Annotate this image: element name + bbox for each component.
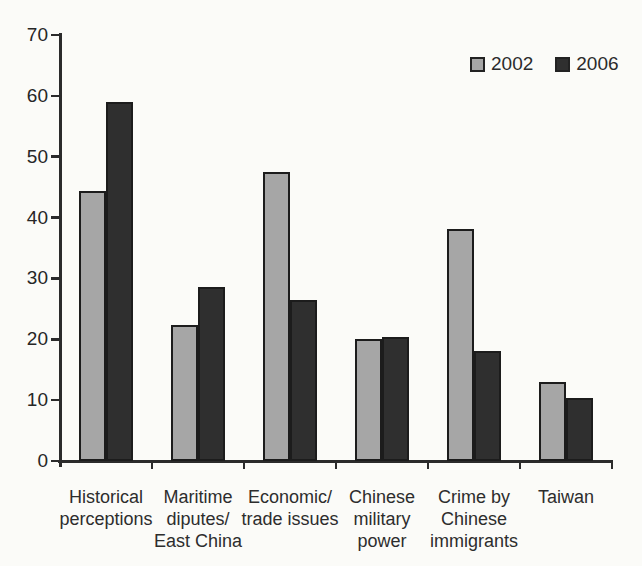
y-tick-label: 10 — [8, 389, 48, 411]
legend-item-2002: 2002 — [470, 53, 533, 75]
x-tick-mark — [519, 460, 522, 469]
bar-2002-taiwan — [539, 382, 566, 461]
y-axis-line — [59, 33, 62, 467]
bar-2002-chinese-military-power — [355, 339, 382, 461]
bar-2006-maritime-diputes-east-china — [198, 287, 225, 461]
x-category-label-line: immigrants — [412, 530, 536, 552]
y-tick-label: 0 — [8, 450, 48, 472]
legend-label-2002: 2002 — [491, 53, 533, 75]
legend-item-2006: 2006 — [555, 53, 618, 75]
x-tick-mark — [427, 460, 430, 469]
y-tick-label: 40 — [8, 207, 48, 229]
legend-swatch-2002 — [470, 57, 485, 72]
y-tick-mark — [51, 399, 59, 402]
x-tick-mark — [243, 460, 246, 469]
bar-2002-historical-perceptions — [79, 191, 106, 461]
x-category-label-line: East China — [136, 530, 260, 552]
y-tick-label: 60 — [8, 85, 48, 107]
y-tick-label: 20 — [8, 328, 48, 350]
bar-chart-figure: 20022006 010203040506070Historicalpercep… — [0, 0, 642, 566]
bar-2002-maritime-diputes-east-china — [171, 325, 198, 461]
chart-legend: 20022006 — [470, 53, 619, 75]
x-tick-mark — [335, 460, 338, 469]
bar-2006-historical-perceptions — [106, 102, 133, 461]
bar-2006-taiwan — [566, 398, 593, 461]
x-category-label-line: Taiwan — [504, 486, 628, 508]
y-tick-mark — [51, 338, 59, 341]
x-category-label: Taiwan — [504, 486, 628, 508]
legend-label-2006: 2006 — [576, 53, 618, 75]
y-tick-mark — [51, 34, 59, 37]
bar-2002-crime-by-chinese-immigrants — [447, 229, 474, 461]
bar-2006-crime-by-chinese-immigrants — [474, 351, 501, 461]
y-tick-label: 70 — [8, 24, 48, 46]
bar-2006-economic-trade-issues — [290, 300, 317, 461]
x-tick-mark — [151, 460, 154, 469]
x-tick-mark — [611, 460, 614, 469]
y-tick-mark — [51, 277, 59, 280]
y-tick-mark — [51, 460, 59, 463]
y-tick-mark — [51, 95, 59, 98]
bar-2002-economic-trade-issues — [263, 172, 290, 461]
y-tick-mark — [51, 155, 59, 158]
y-tick-label: 30 — [8, 267, 48, 289]
legend-swatch-2006 — [555, 57, 570, 72]
bar-2006-chinese-military-power — [382, 337, 409, 461]
x-category-label-line: Chinese — [412, 508, 536, 530]
y-tick-label: 50 — [8, 146, 48, 168]
y-tick-mark — [51, 216, 59, 219]
